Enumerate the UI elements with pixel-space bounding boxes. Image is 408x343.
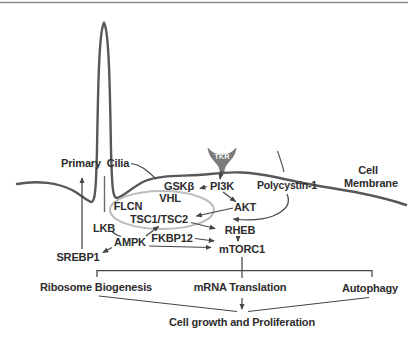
- label-cell-growth: Cell growth and Proliferation: [169, 317, 315, 328]
- arrow-ampk-to-mtorc1: [149, 246, 211, 248]
- connector-cilia-to-gskb: [131, 164, 156, 180]
- output-autophagy: Autophagy: [342, 283, 398, 294]
- node-akt: AKT: [234, 202, 256, 213]
- connector-autophagy-to-growth: [248, 298, 369, 312]
- label-membrane: Membrane: [344, 178, 398, 189]
- connector-ribosome-to-growth: [99, 296, 237, 312]
- label-cilia: Cilia: [107, 158, 129, 169]
- node-srebp1: SREBP1: [56, 252, 99, 263]
- arrow-ampk-to-srebp1: [103, 248, 112, 253]
- polycystin1-transmembrane-line: [278, 151, 285, 172]
- arrow-pi3k-to-gskb: [200, 187, 207, 189]
- label-cell: Cell: [358, 165, 378, 176]
- label-tkr: TKR: [214, 153, 229, 161]
- arrow-fkbp12-to-mtorc1: [195, 239, 214, 242]
- output-mrna-translation: mRNA Translation: [194, 282, 287, 293]
- label-primary: Primary: [61, 158, 101, 169]
- node-tsc1-tsc2: TSC1/TSC2: [130, 214, 188, 225]
- bracket-outputs: [97, 271, 372, 278]
- node-ampk: AMPK: [114, 237, 146, 248]
- node-lkb: LKB: [93, 223, 115, 234]
- node-gskb: GSKβ: [164, 181, 194, 192]
- node-mtorc1: mTORC1: [219, 244, 265, 255]
- node-polycystin1: Polycystin-1: [257, 180, 317, 191]
- node-fkbp12: FKBP12: [151, 233, 192, 244]
- node-flcn: FLCN: [114, 201, 143, 212]
- output-ribosome-biogenesis: Ribosome Biogenesis: [40, 282, 152, 293]
- pathway-diagram: Primary Cilia Cell Membrane TKR GSKβ PI3…: [0, 0, 408, 343]
- node-vhl: VHL: [159, 193, 181, 204]
- node-rheb: RHEB: [225, 225, 256, 236]
- node-pi3k: PI3K: [210, 181, 234, 192]
